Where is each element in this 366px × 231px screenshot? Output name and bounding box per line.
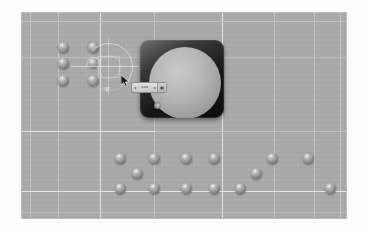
grid-line-horizontal (22, 131, 155, 132)
gizmo-bounding-square (98, 56, 120, 78)
sphere-object[interactable] (88, 75, 99, 86)
sphere-object[interactable] (325, 183, 336, 194)
sphere-object[interactable] (88, 58, 99, 69)
gizmo-x-axis (71, 66, 139, 67)
sphere-object[interactable] (181, 153, 192, 164)
sphere-object[interactable] (58, 58, 69, 69)
sphere-object[interactable] (267, 153, 278, 164)
sphere-object[interactable] (235, 183, 246, 194)
sphere-object[interactable] (58, 42, 69, 53)
slider-options-icon[interactable]: ▣ (157, 83, 166, 92)
sphere-object[interactable] (149, 153, 160, 164)
sphere-object[interactable] (209, 183, 220, 194)
perspective-viewport[interactable]: ◂ 0.00 ▸ ▣ (22, 13, 346, 218)
sphere-object[interactable] (115, 153, 126, 164)
sphere-object[interactable] (88, 42, 99, 53)
sphere-object[interactable] (115, 183, 126, 194)
grid-line-vertical (100, 13, 101, 218)
grid-line-horizontal (22, 212, 346, 213)
value-slider-widget[interactable]: ◂ 0.00 ▸ ▣ (132, 83, 166, 92)
gizmo-y-axis (108, 37, 109, 95)
sphere-object[interactable] (132, 168, 143, 179)
grid-line-vertical (30, 13, 31, 218)
grid-line-horizontal (155, 131, 346, 132)
grid-line-horizontal (22, 21, 346, 22)
sphere-object[interactable] (58, 75, 69, 86)
sphere-object[interactable] (181, 183, 192, 194)
sphere-object[interactable] (149, 183, 160, 194)
grid-line-vertical (340, 13, 341, 218)
preview-highlight-dot (154, 102, 161, 109)
gizmo-cone-handle (103, 87, 111, 92)
material-preview-panel[interactable] (140, 40, 224, 118)
grid-line-vertical (274, 13, 275, 218)
sphere-object[interactable] (303, 153, 314, 164)
sphere-object[interactable] (251, 168, 262, 179)
mouse-cursor (121, 75, 130, 87)
grid-line-vertical (314, 13, 315, 218)
screen-root: ◂ 0.00 ▸ ▣ (0, 0, 366, 231)
slider-value-text: 0.00 (137, 86, 152, 90)
sphere-object[interactable] (209, 153, 220, 164)
